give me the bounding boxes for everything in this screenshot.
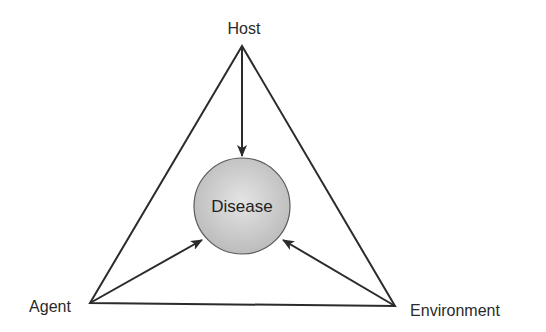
disease-label: Disease	[211, 197, 272, 216]
epidemiologic-triangle-diagram: Disease Host Agent Environment	[0, 0, 546, 332]
environment-to-disease-arrow	[283, 240, 395, 306]
agent-to-disease-arrow	[90, 240, 202, 303]
environment-label: Environment	[410, 302, 500, 319]
agent-label: Agent	[29, 298, 71, 315]
host-label: Host	[228, 20, 261, 37]
